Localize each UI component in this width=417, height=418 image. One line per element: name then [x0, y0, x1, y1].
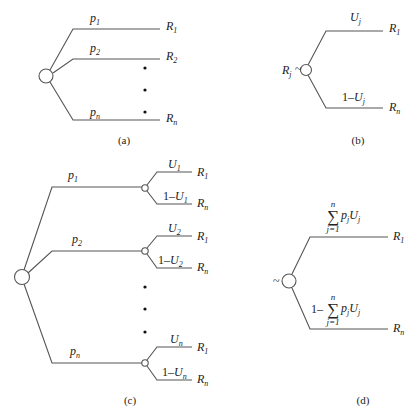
lottery-tree-figure: p1 p2 pn R1 R2 Rn (a) Rj ~ Uj 1–Uj R1 Rn… — [0, 0, 417, 418]
caption-b: (b) — [352, 134, 365, 147]
outcome-label-r1: R1 — [196, 165, 208, 181]
prob-label-1-un: 1–Un — [162, 365, 187, 381]
main-branch-line-1 — [24, 187, 142, 270]
ellipsis-dot-icon — [143, 285, 146, 288]
branch-line-2 — [53, 59, 160, 73]
branch-line-lower — [292, 288, 388, 329]
prob-label-u1: U1 — [168, 157, 181, 173]
sub-chance-node-icon — [142, 248, 148, 254]
outcome-label-r1: R1 — [392, 229, 404, 245]
chance-node-icon — [301, 65, 312, 76]
outcome-label-rn: Rn — [392, 321, 404, 337]
sum-term: pjUj — [340, 301, 361, 317]
prob-label-1-uj: 1–Uj — [342, 90, 366, 106]
main-branch-line-n — [24, 284, 142, 363]
prob-label-1-u2: 1–U2 — [158, 253, 183, 269]
sum-lower-limit: j=1 — [325, 317, 339, 327]
outcome-label-r1: R1 — [388, 21, 400, 37]
caption-c: (c) — [124, 394, 137, 407]
panel-b: Rj ~ Uj 1–Uj R1 Rn (b) — [281, 10, 400, 147]
outcome-label-rn: Rn — [196, 260, 208, 276]
sub-branch-line — [147, 236, 192, 248]
prob-label-1-u1: 1–U1 — [163, 189, 188, 205]
equivalence-tilde: ~ — [295, 62, 302, 76]
ellipsis-dot-icon — [143, 330, 146, 333]
prob-label-u2: U2 — [168, 221, 181, 237]
outcome-label-rn: Rn — [165, 111, 177, 127]
outcome-label-rn: Rn — [196, 372, 208, 388]
prob-label-p2: p2 — [89, 41, 100, 57]
panel-d: ~ n ∑ j=1 pjUj n 1– ∑ j=1 pjUj R1 Rn (d) — [273, 199, 404, 407]
chance-node-icon — [15, 270, 30, 285]
chance-node-icon — [39, 69, 53, 83]
outcome-label-r2: R2 — [165, 49, 177, 65]
sum-expression-lower: n 1– ∑ j=1 pjUj — [311, 292, 361, 327]
outcome-label-r1: R1 — [196, 229, 208, 245]
caption-a: (a) — [118, 134, 131, 147]
equivalence-tilde: ~ — [273, 274, 280, 288]
sub-branch-line — [147, 172, 192, 185]
sum-term: pjUj — [340, 208, 361, 224]
ellipsis-dot-icon — [143, 110, 146, 113]
prob-label-un: Un — [170, 332, 183, 348]
prob-label-uj: Uj — [350, 10, 362, 26]
chance-node-icon — [282, 274, 296, 288]
outcome-label-rn: Rn — [388, 100, 400, 116]
sub-chance-node-icon — [142, 185, 148, 191]
panel-c: p1 p2 pn U1 1–U1 U2 1–U2 Un 1–Un R1 Rn R… — [15, 157, 209, 407]
outcome-label-r1: R1 — [165, 19, 177, 35]
root-label-rj: Rj — [281, 63, 292, 79]
branch-line-upper — [292, 237, 388, 274]
prob-label-pn: pn — [69, 344, 80, 360]
panel-a: p1 p2 pn R1 R2 Rn (a) — [39, 11, 177, 147]
branch-line-upper — [308, 31, 383, 65]
ellipsis-dot-icon — [143, 66, 146, 69]
prob-label-p1: p1 — [67, 168, 78, 184]
prob-label-p1: p1 — [89, 11, 100, 27]
one-minus-prefix: 1– — [311, 302, 324, 316]
prob-label-pn: pn — [89, 105, 100, 121]
ellipsis-dot-icon — [143, 307, 146, 310]
sub-chance-node-icon — [142, 360, 148, 366]
ellipsis-dot-icon — [143, 88, 146, 91]
sum-lower-limit: j=1 — [325, 224, 339, 234]
prob-label-p2: p2 — [71, 232, 82, 248]
caption-d: (d) — [357, 394, 370, 407]
sum-expression-upper: n ∑ j=1 pjUj — [325, 199, 360, 234]
main-branch-line-2 — [28, 251, 142, 273]
sub-branch-line — [147, 347, 192, 360]
outcome-label-r1: R1 — [196, 340, 208, 356]
outcome-label-rn: Rn — [196, 196, 208, 212]
branch-line-n — [50, 82, 160, 120]
